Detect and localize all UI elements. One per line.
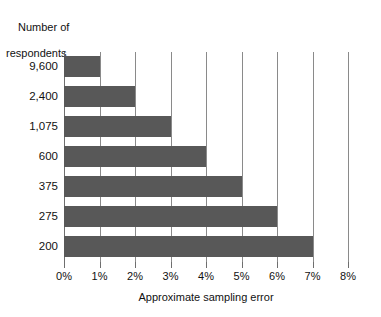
- x-tick-label-3: 3%: [156, 270, 186, 283]
- y-tick-label-9600: 9,600: [0, 60, 58, 72]
- bar-275: [64, 206, 277, 227]
- bar-2400: [64, 86, 135, 107]
- plot-area: [64, 52, 348, 262]
- bars: [64, 52, 348, 262]
- y-axis-title-line-1: Number of: [6, 21, 136, 34]
- bar-row: [64, 172, 348, 202]
- x-tick-5: [242, 262, 243, 268]
- x-tick-label-4: 4%: [191, 270, 221, 283]
- bar-600: [64, 146, 206, 167]
- x-tick-7: [313, 262, 314, 268]
- x-tick-label-8: 8%: [333, 270, 363, 283]
- bar-375: [64, 176, 242, 197]
- y-tick-label-375: 375: [0, 180, 58, 192]
- bar-1075: [64, 116, 171, 137]
- y-tick-label-600: 600: [0, 150, 58, 162]
- x-tick-1: [100, 262, 101, 268]
- bar-row: [64, 142, 348, 172]
- bar-row: [64, 232, 348, 262]
- x-tick-6: [277, 262, 278, 268]
- bar-200: [64, 236, 313, 257]
- x-axis-ticks: 0%1%2%3%4%5%6%7%8%: [64, 262, 348, 292]
- bar-row: [64, 112, 348, 142]
- y-tick-label-200: 200: [0, 240, 58, 252]
- y-axis-tick-labels: 9,6002,4001,075600375275200: [0, 52, 58, 262]
- x-tick-label-7: 7%: [298, 270, 328, 283]
- y-tick-label-275: 275: [0, 210, 58, 222]
- x-tick-0: [64, 262, 65, 268]
- x-tick-label-0: 0%: [49, 270, 79, 283]
- x-tick-label-5: 5%: [227, 270, 257, 283]
- bar-row: [64, 82, 348, 112]
- bar-row: [64, 202, 348, 232]
- y-tick-label-2400: 2,400: [0, 90, 58, 102]
- x-tick-4: [206, 262, 207, 268]
- bar-9600: [64, 56, 100, 77]
- x-tick-label-6: 6%: [262, 270, 292, 283]
- x-axis-title: Approximate sampling error: [64, 291, 348, 304]
- x-tick-2: [135, 262, 136, 268]
- x-tick-8: [348, 262, 349, 268]
- y-tick-label-1075: 1,075: [0, 120, 58, 132]
- bar-row: [64, 52, 348, 82]
- gridline-8: [348, 52, 349, 262]
- sampling-error-bar-chart: Number of respondents 9,6002,4001,075600…: [0, 0, 381, 317]
- x-tick-label-1: 1%: [85, 270, 115, 283]
- x-tick-3: [171, 262, 172, 268]
- x-tick-label-2: 2%: [120, 270, 150, 283]
